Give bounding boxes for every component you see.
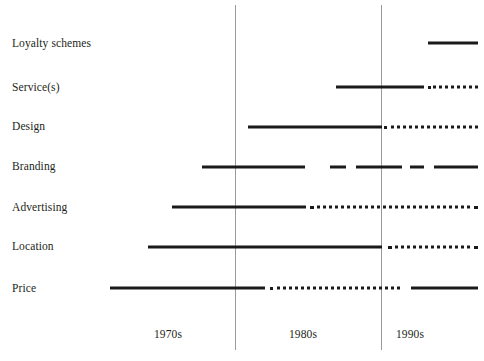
timeline-segment bbox=[428, 42, 478, 45]
decade-label-1980s: 1980s bbox=[289, 328, 317, 340]
decade-divider-1970s-1980s bbox=[235, 5, 236, 350]
timeline-chart: Loyalty schemesService(s)DesignBrandingA… bbox=[0, 0, 484, 361]
timeline-segment bbox=[428, 86, 478, 89]
decade-label-1970s: 1970s bbox=[154, 328, 182, 340]
timeline-segment bbox=[172, 206, 306, 209]
timeline-segment bbox=[330, 166, 346, 169]
timeline-segment bbox=[410, 166, 424, 169]
timeline-segment bbox=[434, 166, 478, 169]
category-label: Service(s) bbox=[12, 82, 60, 94]
timeline-segment bbox=[310, 206, 478, 209]
category-label: Loyalty schemes bbox=[12, 38, 91, 50]
category-label: Price bbox=[12, 283, 36, 295]
timeline-segment bbox=[388, 246, 478, 249]
timeline-segment bbox=[270, 287, 400, 290]
timeline-segment bbox=[384, 126, 478, 129]
timeline-segment bbox=[148, 246, 382, 249]
category-label: Advertising bbox=[12, 202, 67, 214]
timeline-segment bbox=[336, 86, 424, 89]
timeline-segment bbox=[248, 126, 382, 129]
category-label: Branding bbox=[12, 161, 56, 173]
timeline-segment bbox=[202, 166, 305, 169]
category-label: Design bbox=[12, 121, 45, 133]
timeline-segment bbox=[356, 166, 402, 169]
decade-label-1990s: 1990s bbox=[396, 328, 424, 340]
category-label: Location bbox=[12, 241, 54, 253]
decade-divider-1980s-1990s bbox=[381, 5, 382, 350]
timeline-segment bbox=[411, 287, 478, 290]
timeline-segment bbox=[110, 287, 265, 290]
